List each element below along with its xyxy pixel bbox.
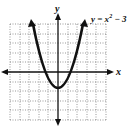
y-axis [55,13,61,126]
equation-prefix: y = x [91,14,109,24]
equation-suffix: − 3 [112,14,126,24]
equation-label: y = x2 − 3 [91,13,127,24]
curve-arrow-left [28,19,36,27]
y-axis-label: y [55,3,59,14]
x-axis-label: x [116,66,121,77]
curve-arrow-right [80,19,88,27]
